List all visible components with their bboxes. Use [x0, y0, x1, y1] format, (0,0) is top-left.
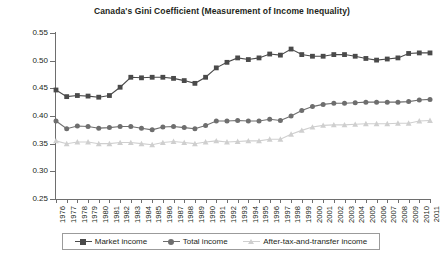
x-axis-tick-label: 1993 [241, 206, 249, 223]
x-axis-tick-label: 1986 [166, 206, 174, 223]
data-point [395, 120, 401, 125]
data-point [96, 141, 102, 146]
data-point [149, 142, 155, 147]
x-axis-line [55, 199, 431, 200]
data-point [331, 101, 336, 106]
data-point [321, 54, 326, 59]
y-axis-tick [50, 88, 55, 89]
x-axis-tick [174, 199, 175, 203]
data-point [192, 141, 198, 146]
data-point [192, 126, 197, 131]
data-point [107, 125, 112, 130]
x-axis-tick [238, 199, 239, 203]
x-axis-tick-label: 1995 [262, 206, 270, 223]
data-point [107, 93, 112, 98]
data-point [203, 75, 208, 80]
x-axis-tick [227, 199, 228, 203]
gini-coefficient-chart: Canada's Gini Coefficient (Measurement o… [0, 0, 444, 254]
data-point [139, 75, 144, 80]
legend-item-after-tax-and-transfer-income[interactable]: After-tax-and-transfer income [243, 237, 367, 246]
y-axis-line [55, 32, 56, 200]
x-axis-tick [377, 199, 378, 203]
data-point [53, 138, 59, 143]
data-point [363, 100, 368, 105]
x-axis-tick [409, 199, 410, 203]
data-point [256, 138, 262, 143]
y-axis-tick-label: 0.55 [4, 29, 48, 37]
data-point [150, 127, 155, 132]
data-point [224, 118, 229, 123]
data-point [118, 85, 123, 90]
x-axis-tick [323, 199, 324, 203]
y-axis-tick [50, 144, 55, 145]
x-axis-tick [291, 199, 292, 203]
data-point [321, 102, 326, 107]
data-point [289, 114, 294, 119]
data-point [139, 141, 145, 146]
x-axis-tick [206, 199, 207, 203]
data-point [128, 124, 133, 129]
data-point [374, 58, 379, 63]
y-axis-tick [50, 116, 55, 117]
data-point [352, 121, 358, 126]
x-axis-tick-label: 2002 [337, 206, 345, 223]
data-point [117, 140, 123, 145]
x-axis-tick-label: 1999 [305, 206, 313, 223]
data-point [225, 60, 230, 65]
data-point [299, 127, 305, 132]
data-point [396, 56, 401, 61]
x-axis-tick-label: 2004 [358, 206, 366, 223]
data-point [416, 118, 422, 123]
data-point [235, 56, 240, 61]
data-point [427, 118, 433, 123]
data-point [257, 56, 262, 61]
data-point [139, 126, 144, 131]
data-point [385, 100, 390, 105]
data-point [107, 141, 113, 146]
square-marker-icon [75, 237, 92, 246]
y-axis-tick-label: 0.30 [4, 167, 48, 175]
x-axis-tick-label: 1980 [102, 206, 110, 223]
x-axis-tick-label: 2008 [401, 206, 409, 223]
data-point [406, 120, 412, 125]
data-point [374, 100, 379, 105]
x-axis-tick [302, 199, 303, 203]
x-axis-tick-label: 2003 [348, 206, 356, 223]
legend-label: Market income [95, 237, 147, 246]
x-axis-tick-label: 1981 [113, 206, 121, 223]
data-point [214, 65, 219, 70]
data-point [75, 93, 80, 98]
y-axis-tick [50, 61, 55, 62]
data-point [331, 122, 337, 127]
x-axis-tick [141, 199, 142, 203]
x-axis-tick-label: 1990 [209, 206, 217, 223]
data-point [374, 121, 380, 126]
x-axis-tick-label: 1978 [81, 206, 89, 223]
x-axis-tick-label: 1994 [252, 206, 260, 223]
data-point [299, 108, 304, 113]
x-axis-tick-label: 1997 [284, 206, 292, 223]
data-point [182, 125, 187, 130]
legend-item-total-income[interactable]: Total income [163, 237, 228, 246]
data-point [160, 75, 165, 80]
x-axis-tick [216, 199, 217, 203]
data-point [353, 54, 358, 59]
data-point [235, 118, 240, 123]
x-axis-tick [398, 199, 399, 203]
legend-item-market-income[interactable]: Market income [75, 237, 147, 246]
data-point [385, 57, 390, 62]
data-point [75, 123, 80, 128]
data-point [267, 136, 273, 141]
y-axis-tick-label: 0.45 [4, 84, 48, 92]
data-point [257, 118, 262, 123]
x-axis-tick [56, 199, 57, 203]
x-axis-tick [345, 199, 346, 203]
x-axis-tick [184, 199, 185, 203]
data-point [310, 54, 315, 59]
data-point [171, 76, 176, 81]
series-market-income [54, 47, 433, 100]
x-axis-tick [270, 199, 271, 203]
x-axis-tick [248, 199, 249, 203]
y-axis-tick [50, 171, 55, 172]
y-axis-labels: 0.550.500.450.400.350.300.25 [0, 0, 48, 254]
